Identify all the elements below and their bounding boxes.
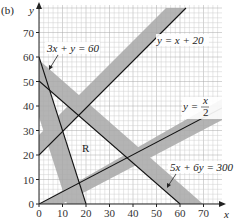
x-tick-labels: 010203040506070 — [36, 207, 209, 219]
x-tick-label: 20 — [81, 207, 93, 219]
y-tick-label: 50 — [23, 76, 35, 88]
y-tick-labels: 010203040506070 — [23, 27, 35, 211]
x-tick-label: 40 — [128, 207, 140, 219]
label-y-eq-x-over-2-num: x — [202, 94, 208, 106]
y-tick-label: 20 — [23, 149, 35, 161]
label-3x-plus-y-eq-60: 3x + y = 60 — [46, 42, 100, 54]
x-tick-label: 60 — [175, 207, 187, 219]
label-y-eq-x-over-2-den: 2 — [203, 106, 209, 118]
y-tick-label: 60 — [23, 51, 35, 63]
y-tick-label: 30 — [23, 125, 35, 137]
label-5x-plus-6y-eq-300: 5x + 6y = 300 — [170, 161, 234, 173]
linear-programming-graph: 010203040506070 010203040506070 y x (b) … — [0, 0, 236, 221]
x-tick-label: 30 — [104, 207, 116, 219]
region-label: R — [82, 142, 90, 154]
label-y-eq-x-plus-20: y = x + 20 — [156, 34, 204, 46]
part-label: (b) — [1, 4, 14, 17]
label-y-eq-x-over-2-lhs: y = — [182, 100, 198, 112]
x-tick-label: 0 — [36, 207, 42, 219]
x-tick-label: 50 — [151, 207, 163, 219]
y-tick-label: 70 — [23, 27, 35, 39]
y-tick-label: 0 — [29, 198, 35, 210]
y-tick-label: 40 — [23, 100, 35, 112]
x-tick-label: 10 — [57, 207, 69, 219]
y-axis-label: y — [28, 4, 34, 16]
x-axis-label: x — [223, 208, 229, 220]
x-axis-arrow-icon — [219, 201, 226, 207]
y-tick-label: 10 — [23, 174, 35, 186]
y-axis-arrow-icon — [36, 2, 42, 9]
x-tick-label: 70 — [198, 207, 210, 219]
